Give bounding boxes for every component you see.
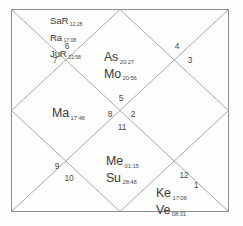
vedic-birth-chart: 123456789101112 SaR12:28Ra17:08JuR23:58A… bbox=[0, 0, 243, 226]
chart-grid bbox=[0, 0, 243, 226]
